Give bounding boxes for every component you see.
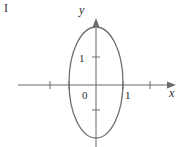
y-axis-label: y (78, 3, 85, 17)
origin-label: 0 (82, 89, 88, 101)
figure-container: I y x 0 1 1 (0, 0, 188, 147)
x-axis-tick-label-one: 1 (125, 89, 131, 101)
ellipse-graph-figure: I y x 0 1 1 (0, 0, 188, 147)
panel-letter-label: I (4, 1, 8, 15)
x-axis-label: x (168, 86, 175, 100)
figure-background (0, 0, 188, 147)
y-axis-tick-label-one: 1 (79, 52, 85, 64)
